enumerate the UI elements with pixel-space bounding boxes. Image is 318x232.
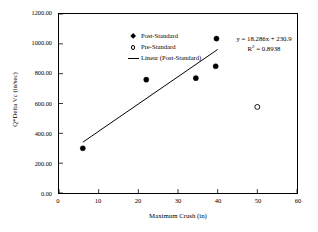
- y-axis-tick-labels: 0.00200.00400.00600.00800.001000.001200.…: [0, 13, 52, 194]
- x-tick-label: 50: [255, 198, 262, 205]
- y-tick-label: 400.00: [35, 131, 52, 137]
- y-tick-label: 1200.00: [32, 10, 52, 16]
- filled-diamond-icon: [125, 34, 141, 38]
- line-segment-icon-glyph: [128, 58, 139, 59]
- open-circle-icon-glyph: [131, 45, 135, 49]
- x-axis-title: Maximum Crush (in): [58, 212, 298, 219]
- x-tick-label: 30: [175, 198, 182, 205]
- x-tick-label: 20: [135, 198, 142, 205]
- legend-item: Linear (Post-Standard): [125, 53, 243, 64]
- y-tick-label: 800.00: [35, 70, 52, 76]
- chart-figure: 0.00200.00400.00600.00800.001000.001200.…: [0, 0, 318, 232]
- open-circle-icon: [125, 45, 141, 49]
- equation-text: y = 18.286x + 230.9: [222, 34, 306, 44]
- filled-diamond-icon-glyph: [130, 33, 136, 39]
- y-tick-label: 200.00: [35, 161, 52, 167]
- line-segment-icon: [125, 58, 141, 59]
- y-axis-title: Q*Delta Vc (in/sec): [11, 9, 18, 190]
- x-tick-label: 10: [95, 198, 102, 205]
- y-tick-label: 600.00: [35, 100, 52, 106]
- x-tick-label: 60: [295, 198, 302, 205]
- legend-item-label: Pre-Standard: [141, 44, 175, 51]
- x-axis-tick-labels: 0102030405060: [58, 198, 298, 210]
- x-tick-label: 0: [56, 198, 59, 205]
- legend-item-label: Post-Standard: [141, 33, 178, 40]
- x-tick-label: 40: [215, 198, 222, 205]
- r-squared-value: = 0.8938: [255, 45, 281, 52]
- regression-equation-annotation: y = 18.286x + 230.9 R2 = 0.8938: [222, 34, 306, 54]
- y-tick-label: 0.00: [41, 191, 52, 197]
- legend-item-label: Linear (Post-Standard): [141, 55, 201, 62]
- y-tick-label: 1000.00: [32, 40, 52, 46]
- r-squared-text: R2 = 0.8938: [222, 44, 306, 54]
